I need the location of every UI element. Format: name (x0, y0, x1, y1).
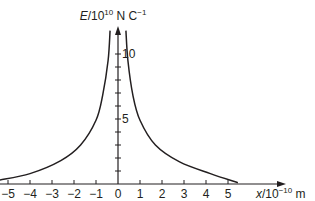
x-tick-label: 4 (203, 187, 210, 201)
curve-left (0, 31, 110, 181)
x-tick-label: −3 (45, 187, 59, 201)
electric-field-chart: −5−4−3−2−1012345 510 E/1010 N C−1 x/10−1… (0, 0, 315, 201)
y-axis-arrow-icon (115, 26, 121, 35)
x-tick-label: 1 (137, 187, 144, 201)
x-tick-label: −2 (67, 187, 81, 201)
y-tick-label: 10 (122, 47, 136, 61)
curve-right (126, 31, 238, 183)
x-tick-label: 5 (225, 187, 232, 201)
x-tick-label: 2 (159, 187, 166, 201)
x-tick-label: −1 (89, 187, 103, 201)
x-tick-label: −5 (1, 187, 15, 201)
field-curves (0, 31, 238, 183)
y-tick-label: 5 (122, 112, 129, 126)
x-tick-label: −4 (23, 187, 37, 201)
x-tick-label: 3 (181, 187, 188, 201)
x-axis: −5−4−3−2−1012345 (0, 180, 286, 201)
x-axis-label: x/10−10 m (255, 186, 306, 201)
y-axis-label: E/1010 N C−1 (80, 8, 147, 23)
y-axis: 510 (115, 26, 136, 184)
x-tick-label: 0 (115, 187, 122, 201)
